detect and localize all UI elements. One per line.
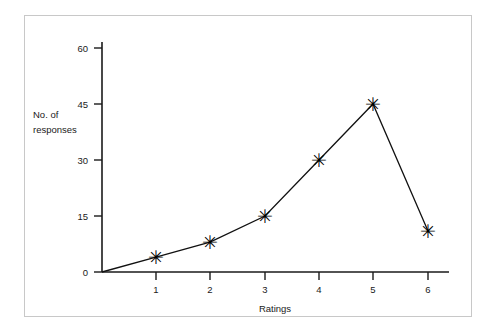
y-tick-label: 15 [77,211,88,222]
asterisk-marker: ✳ [257,205,273,227]
y-axis-title-line-1: No. of [33,109,59,120]
x-tick-label: 1 [153,284,158,295]
asterisk-marker: ✳ [148,246,164,268]
chart-frame: 60 45 30 15 0 1 2 3 4 5 6 ✳ [24,15,472,317]
y-axis-tick-labels: 60 45 30 15 0 [77,43,88,278]
asterisk-marker: ✳ [365,93,381,115]
y-tick-label: 45 [77,99,88,110]
x-axis-title: Ratings [259,303,291,314]
y-axis-title-line-2: responses [33,124,77,135]
x-axis-ticks [156,272,428,280]
y-axis-ticks [94,48,102,272]
y-axis-title: No. of responses [33,109,77,135]
y-tick-label: 0 [83,267,88,278]
data-point-markers: ✳ ✳ ✳ ✳ ✳ ✳ [148,93,436,268]
x-tick-label: 6 [425,284,430,295]
y-tick-label: 30 [77,155,88,166]
asterisk-marker: ✳ [420,220,436,242]
line-chart: 60 45 30 15 0 1 2 3 4 5 6 ✳ [25,16,471,316]
x-tick-label: 2 [207,284,212,295]
x-axis-tick-labels: 1 2 3 4 5 6 [153,284,430,295]
asterisk-marker: ✳ [311,149,327,171]
asterisk-marker: ✳ [202,231,218,253]
y-tick-label: 60 [77,43,88,54]
x-tick-label: 4 [316,284,321,295]
x-tick-label: 5 [370,284,375,295]
x-tick-label: 3 [262,284,267,295]
